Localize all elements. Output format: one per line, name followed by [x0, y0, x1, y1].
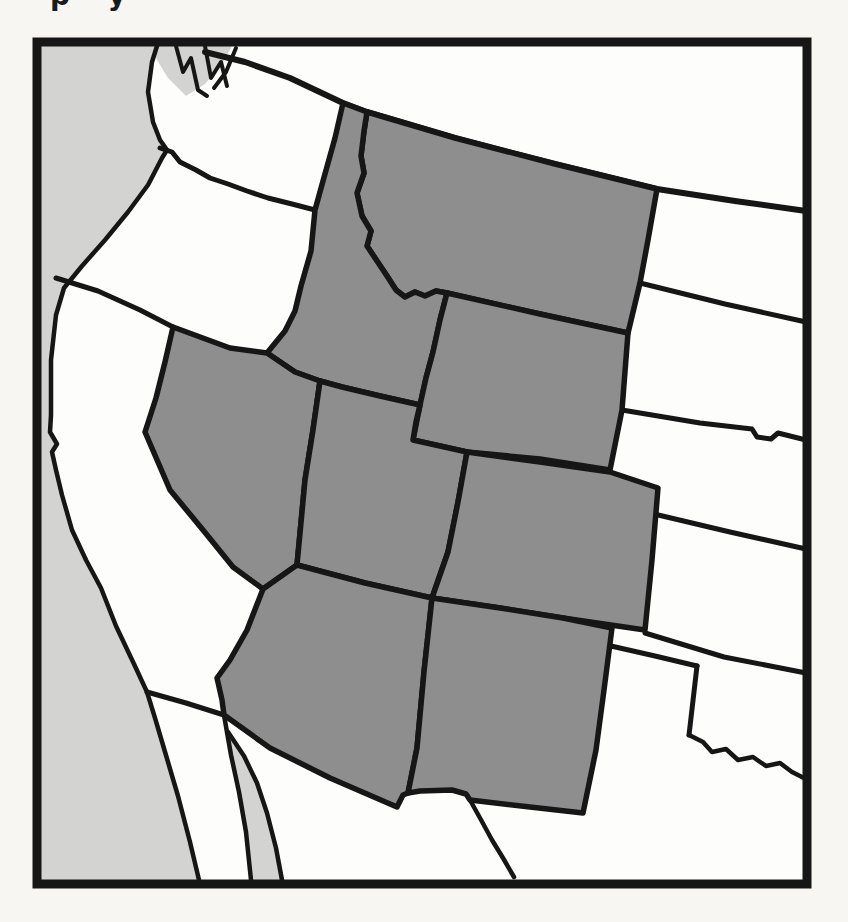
western-us-map — [0, 0, 848, 922]
scanned-map-page: p y — [0, 0, 848, 922]
new-mexico-shaded-region — [408, 598, 612, 813]
